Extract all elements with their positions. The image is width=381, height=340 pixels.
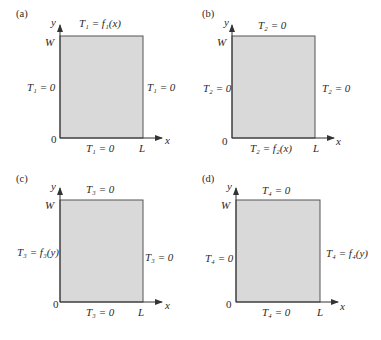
- bc-bottom-d: T₄ = 0: [262, 307, 290, 318]
- origin-label-b: 0: [222, 136, 228, 147]
- bc-bottom-c: T₃ = 0: [86, 307, 114, 318]
- x-axis-label-a: x: [165, 135, 170, 146]
- bc-top-b: T₂ = 0: [258, 20, 286, 31]
- domain-rect-b: [232, 36, 315, 138]
- panel-tag-c: (c): [16, 174, 28, 185]
- bc-left-c: T₃ = f₃(y): [17, 247, 59, 258]
- bc-top-a: T₁ = f₁(x): [79, 18, 121, 29]
- right-label-a: L: [139, 143, 145, 154]
- bc-left-d: T₄ = 0: [205, 253, 233, 264]
- domain-rect-a: [60, 36, 143, 138]
- bc-top-d: T₄ = 0: [262, 185, 290, 196]
- y-axis-label-a: y: [51, 17, 56, 28]
- y-axis-label-d: y: [227, 181, 232, 192]
- bc-left-a: T₁ = 0: [27, 82, 55, 93]
- origin-label-c: 0: [53, 299, 59, 310]
- x-axis-label-c: x: [165, 300, 170, 311]
- top-label-d: W: [221, 200, 230, 211]
- origin-label-a: 0: [51, 134, 57, 145]
- bc-right-d: T₄ = f₄(y): [326, 248, 368, 259]
- x-axis-label-d: x: [340, 301, 345, 312]
- x-axis-label-b: x: [336, 136, 341, 147]
- right-label-d: L: [317, 307, 323, 318]
- panel-tag-d: (d): [202, 174, 214, 185]
- domain-rect-d: [236, 200, 320, 302]
- bc-right-a: T₁ = 0: [147, 82, 175, 93]
- top-label-a: W: [45, 37, 54, 48]
- panel-c: [60, 188, 162, 302]
- right-label-b: L: [313, 143, 319, 154]
- bc-bottom-b: T₂ = f₂(x): [250, 143, 292, 154]
- panel-tag-a: (a): [16, 9, 28, 20]
- origin-label-d: 0: [226, 299, 232, 310]
- panel-d: [236, 188, 338, 302]
- right-label-c: L: [138, 307, 144, 318]
- bc-top-c: T₃ = 0: [86, 184, 114, 195]
- y-axis-label-c: y: [51, 181, 56, 192]
- domain-rect-c: [60, 200, 143, 302]
- y-axis-label-b: y: [224, 17, 229, 28]
- panel-tag-b: (b): [202, 9, 214, 20]
- top-label-b: W: [217, 37, 226, 48]
- bc-bottom-a: T₁ = 0: [86, 143, 114, 154]
- bc-left-b: T₂ = 0: [203, 83, 231, 94]
- bc-right-b: T₂ = 0: [322, 83, 350, 94]
- panel-b: [232, 25, 334, 138]
- top-label-c: W: [45, 200, 54, 211]
- diagram-canvas: [0, 0, 381, 340]
- bc-right-c: T₃ = 0: [145, 252, 173, 263]
